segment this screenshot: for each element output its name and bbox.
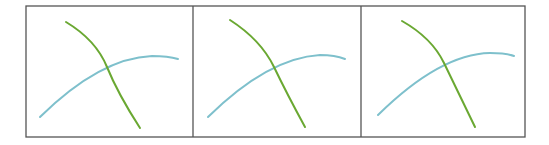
blue-rising-curve bbox=[378, 53, 514, 115]
panels bbox=[40, 20, 514, 128]
blue-rising-curve bbox=[40, 56, 178, 117]
figure-canvas bbox=[0, 0, 549, 145]
green-falling-curve bbox=[66, 22, 140, 128]
green-falling-curve bbox=[230, 20, 305, 127]
blue-rising-curve bbox=[208, 55, 345, 117]
panel-2 bbox=[208, 20, 345, 127]
three-panel-curve-diagram bbox=[0, 0, 549, 145]
panel-1 bbox=[40, 22, 178, 128]
panel-3 bbox=[378, 21, 514, 127]
green-falling-curve bbox=[402, 21, 475, 127]
